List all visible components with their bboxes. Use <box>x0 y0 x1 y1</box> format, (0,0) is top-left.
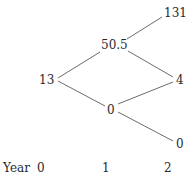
node-year2-updown: 4 <box>176 73 184 87</box>
edge-50.5-to-131 <box>127 17 162 39</box>
node-year2-upup: 131 <box>164 6 187 20</box>
edge-0-to-0 <box>118 112 173 141</box>
node-year1-up: 50.5 <box>101 38 128 52</box>
tree-edges <box>0 0 195 184</box>
edge-13-to-50.5 <box>58 52 100 78</box>
node-year2-downdown: 0 <box>176 137 184 151</box>
axis-tick-2: 2 <box>164 161 172 175</box>
node-year1-down: 0 <box>107 103 115 117</box>
axis-tick-1: 1 <box>102 161 110 175</box>
edge-13-to-0 <box>58 81 105 106</box>
axis-label-year: Year <box>3 161 30 175</box>
edge-50.5-to-4 <box>128 51 173 77</box>
node-year0: 13 <box>39 73 54 87</box>
edge-0-to-4 <box>118 82 173 104</box>
axis-tick-0: 0 <box>37 161 45 175</box>
